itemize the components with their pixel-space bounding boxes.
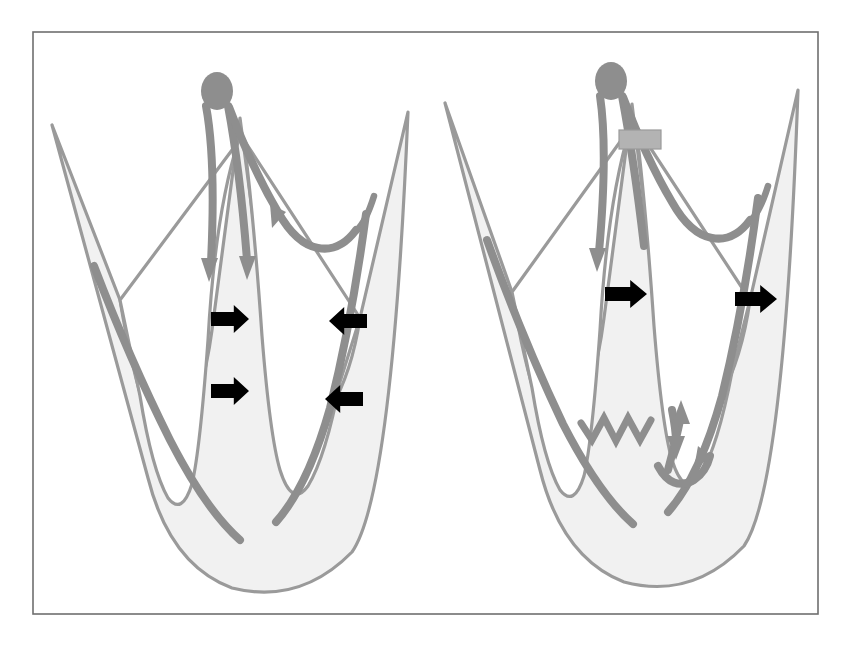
figure-root — [0, 0, 851, 645]
paced-conduction-panel — [445, 62, 798, 587]
normal-conduction-panel — [52, 72, 408, 592]
av-node-ellipse — [201, 72, 233, 110]
cardiac-conduction-diagram — [0, 0, 851, 645]
myocardium-outline-left — [52, 112, 408, 592]
his-bundle-right-septal — [599, 96, 604, 252]
pacing-lead-marker — [619, 130, 661, 149]
av-node-ellipse-right — [595, 62, 627, 100]
